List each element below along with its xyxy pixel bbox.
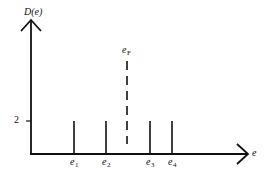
- fermi-label-sub: F: [127, 49, 131, 57]
- y-tick-label: 2: [14, 115, 19, 125]
- level-label-e4: e4: [168, 157, 176, 169]
- level-label-sub: 4: [173, 161, 177, 169]
- level-label-sub: 2: [107, 161, 111, 169]
- level-label-e2: e2: [102, 157, 110, 169]
- level-label-base: e: [146, 156, 150, 167]
- y-axis-label: D(e): [24, 7, 42, 17]
- x-axis-label: e: [252, 148, 256, 158]
- level-label-base: e: [70, 156, 74, 167]
- dos-diagram: [0, 0, 265, 180]
- level-label-e3: e3: [146, 157, 154, 169]
- level-label-sub: 3: [151, 161, 155, 169]
- fermi-label-base: e: [122, 44, 126, 55]
- level-label-e1: e1: [70, 157, 78, 169]
- level-label-sub: 1: [75, 161, 79, 169]
- level-label-base: e: [168, 156, 172, 167]
- fermi-label: eF: [122, 45, 131, 57]
- level-label-base: e: [102, 156, 106, 167]
